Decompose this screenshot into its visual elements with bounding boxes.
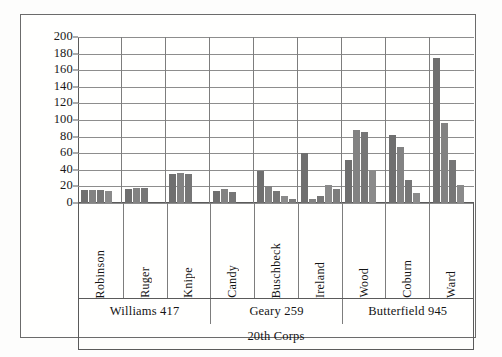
division-label: Butterfield 945 (342, 299, 473, 324)
bar (81, 190, 88, 203)
category-label: Knipe (181, 263, 196, 298)
bar (353, 130, 360, 203)
bar-group (342, 37, 386, 203)
category-label-band: RobinsonRugerKnipeCandyBuschbeckIrelandW… (78, 203, 474, 299)
bar-group (254, 37, 298, 203)
bar (433, 58, 440, 203)
y-tick-label: 120 (54, 95, 73, 110)
category-label: Ruger (138, 263, 153, 298)
bar (397, 147, 404, 203)
bar-group-bars (166, 37, 192, 203)
bar (413, 193, 420, 203)
bar (105, 191, 112, 203)
bar-group-bars (342, 37, 376, 203)
bar (369, 171, 376, 203)
y-tick-label: 0 (67, 195, 73, 210)
bar (213, 191, 220, 203)
bar (133, 188, 140, 203)
bar-group-bars (254, 37, 296, 203)
category-label: Candy (225, 261, 240, 298)
y-tick-label: 100 (54, 112, 73, 127)
y-tick-label: 140 (54, 78, 73, 93)
bar-group (210, 37, 254, 203)
category-label: Robinson (93, 246, 108, 298)
bar (449, 160, 456, 203)
bar-group-bars (386, 37, 420, 203)
category-label-cell: Coburn (385, 203, 429, 298)
bar (125, 189, 132, 203)
bar (229, 192, 236, 203)
bar-group (166, 37, 210, 203)
bar-series (78, 37, 474, 203)
bar (361, 132, 368, 203)
bar-group-bars (298, 37, 340, 203)
bar (301, 153, 308, 203)
bar-group (122, 37, 166, 203)
bar-group (430, 37, 474, 203)
plot-area: 200180160140120100806040200 (78, 37, 474, 203)
bar (389, 135, 396, 203)
bar (257, 171, 264, 203)
y-tick-label: 180 (54, 45, 73, 60)
category-label-cell: Robinson (79, 203, 123, 298)
bar-group-bars (210, 37, 236, 203)
bar-group-bars (430, 37, 464, 203)
category-label-cell: Knipe (167, 203, 211, 298)
corps-label: 20th Corps (78, 324, 474, 350)
chart-figure: 200180160140120100806040200 RobinsonRuge… (0, 0, 502, 357)
y-tick-label: 20 (60, 178, 73, 193)
bar-group (386, 37, 430, 203)
category-label-cell: Ruger (123, 203, 167, 298)
category-label: Wood (357, 264, 372, 298)
bar-group (298, 37, 342, 203)
bar (169, 174, 176, 203)
bar (221, 189, 228, 203)
category-label: Ireland (313, 258, 328, 298)
figure-border: 200180160140120100806040200 RobinsonRuge… (20, 14, 476, 338)
division-label: Geary 259 (210, 299, 341, 324)
y-tick-label: 40 (60, 161, 73, 176)
bar (89, 190, 96, 203)
category-label: Ward (444, 267, 459, 298)
bar (273, 191, 280, 203)
bar (345, 160, 352, 203)
bar (185, 174, 192, 203)
bar-group-bars (122, 37, 148, 203)
bar (405, 180, 412, 203)
y-tick-label: 80 (60, 128, 73, 143)
category-label-cell: Wood (342, 203, 386, 298)
bar (141, 188, 148, 203)
category-label-cell: Ireland (298, 203, 342, 298)
division-label-band: Williams 417Geary 259Butterfield 945 (78, 299, 474, 324)
y-tick-label: 200 (54, 29, 73, 44)
bar (97, 190, 104, 203)
division-label: Williams 417 (79, 299, 210, 324)
bar (325, 185, 332, 203)
bar (457, 185, 464, 203)
bar (441, 123, 448, 204)
bar (177, 173, 184, 203)
category-label-cell: Ward (429, 203, 473, 298)
bar (333, 189, 340, 203)
bar (265, 186, 272, 203)
bar-group (78, 37, 122, 203)
bar (281, 196, 288, 203)
category-label-cell: Candy (210, 203, 254, 298)
y-tick-label: 160 (54, 62, 73, 77)
bar (317, 196, 324, 203)
bar-group-bars (78, 37, 112, 203)
y-tick-label: 60 (60, 145, 73, 160)
category-label: Buschbeck (269, 239, 284, 298)
category-label-cell: Buschbeck (254, 203, 298, 298)
category-label: Coburn (400, 256, 415, 298)
